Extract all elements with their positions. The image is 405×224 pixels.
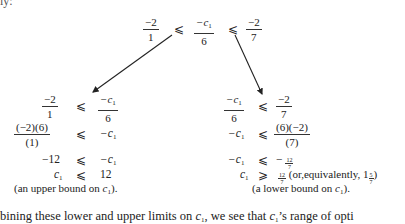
fraction: −2 7	[276, 93, 292, 120]
expression: c1	[240, 168, 249, 182]
leq-symbol: ⩽	[76, 127, 86, 142]
leq-symbol: ⩽	[258, 127, 268, 142]
expression: c1	[54, 168, 63, 182]
leq-symbol: ⩽	[76, 168, 86, 183]
lower-bound-note: (a lower bound on c1).	[252, 182, 350, 196]
expression: −c1	[228, 153, 244, 167]
upper-bound-note: (an upper bound on c1).	[14, 182, 117, 196]
expression: −c1	[100, 153, 116, 167]
fraction: −2 1	[42, 93, 58, 120]
expression: −12	[42, 153, 60, 165]
fraction: −c1 6	[224, 93, 244, 124]
geq-symbol: ⩾	[258, 168, 268, 183]
fraction: (6)(−2) (7)	[274, 121, 310, 148]
fraction: −c1 6	[98, 93, 118, 124]
expression: 12	[100, 168, 112, 180]
expression: −c1	[228, 127, 244, 141]
leq-symbol: ⩽	[258, 99, 268, 114]
leq-symbol: ⩽	[258, 153, 268, 168]
right-arrow-icon	[235, 35, 262, 94]
left-arrow-icon	[93, 35, 172, 92]
fraction: (−2)(6) (1)	[14, 121, 50, 148]
expression: −c1	[100, 127, 116, 141]
body-text-line: bining these lower and upper limits on c…	[0, 209, 354, 224]
leq-symbol: ⩽	[76, 153, 86, 168]
leq-symbol: ⩽	[76, 99, 86, 114]
